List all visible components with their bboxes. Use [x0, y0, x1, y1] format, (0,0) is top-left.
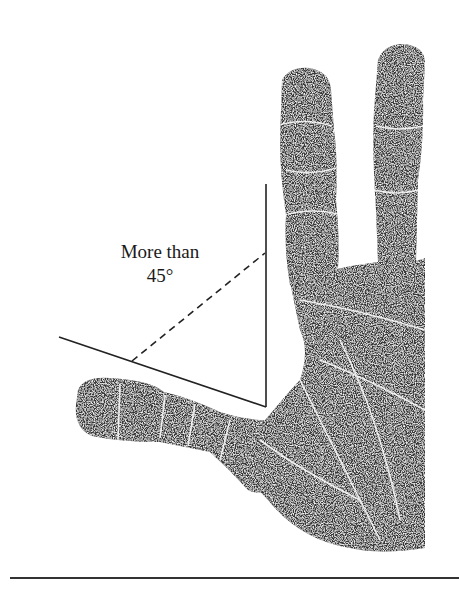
angle-label: More than 45° [100, 240, 220, 288]
angle-indicator [59, 184, 266, 407]
angle-label-line2: 45° [100, 264, 220, 288]
index-finger [280, 68, 339, 285]
bottom-divider [10, 577, 459, 579]
angle-label-line1: More than [100, 240, 220, 264]
hand-print [76, 44, 425, 552]
middle-finger [373, 44, 425, 262]
palm-print-diagram [0, 0, 459, 589]
